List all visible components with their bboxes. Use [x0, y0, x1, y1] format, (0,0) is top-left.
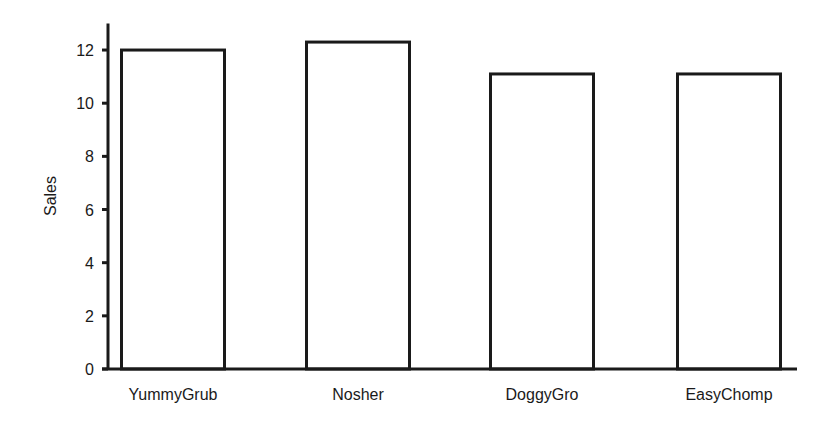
bar-doggygro — [491, 74, 594, 369]
x-axis: YummyGrubNosherDoggyGroEasyChomp — [102, 369, 797, 403]
y-axis-title: Sales — [42, 176, 59, 216]
bar-yummygrub — [122, 50, 225, 369]
bar-chart: 024681012 YummyGrubNosherDoggyGroEasyCho… — [0, 0, 836, 426]
y-axis: 024681012 — [76, 23, 108, 378]
y-tick-label: 0 — [85, 361, 94, 378]
bars-group — [122, 42, 781, 369]
y-tick-label: 4 — [85, 255, 94, 272]
y-tick-label: 10 — [76, 95, 94, 112]
bar-easychomp — [678, 74, 781, 369]
x-category-label: DoggyGro — [506, 386, 579, 403]
x-category-label: YummyGrub — [129, 386, 218, 403]
y-tick-label: 8 — [85, 148, 94, 165]
y-tick-label: 2 — [85, 308, 94, 325]
x-category-label: Nosher — [332, 386, 384, 403]
y-tick-label: 12 — [76, 42, 94, 59]
x-category-label: EasyChomp — [685, 386, 772, 403]
bar-nosher — [307, 42, 410, 369]
y-tick-label: 6 — [85, 202, 94, 219]
